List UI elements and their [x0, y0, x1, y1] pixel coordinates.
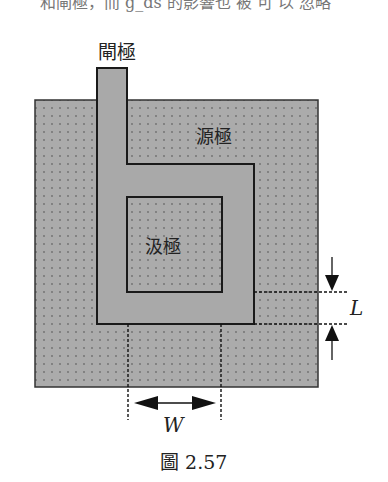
figure-caption: 圖 2.57: [160, 447, 227, 474]
l-arrow-top-icon: [325, 257, 339, 291]
w-double-arrow-icon: [134, 396, 216, 410]
length-label: L: [350, 296, 363, 320]
width-label: W: [163, 413, 184, 437]
l-arrow-bottom-icon: [325, 325, 339, 360]
source-label: 源極: [196, 122, 232, 148]
transistor-layout-diagram: [0, 0, 388, 482]
drain-label: 汲極: [145, 232, 181, 258]
gate-label: 閘極: [98, 37, 136, 64]
